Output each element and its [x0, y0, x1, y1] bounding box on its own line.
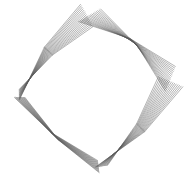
string-line	[95, 132, 144, 167]
string-line	[50, 21, 89, 53]
string-line	[19, 55, 52, 89]
string-line	[50, 19, 89, 52]
string-art-svg	[0, 0, 187, 180]
string-line	[48, 13, 86, 50]
string-line	[25, 97, 59, 140]
string-line	[51, 24, 91, 54]
string-line	[140, 81, 168, 127]
string-line	[140, 81, 169, 127]
string-art-figure	[0, 0, 187, 180]
string-line	[143, 85, 178, 130]
string-line	[143, 84, 177, 130]
string-line	[130, 38, 176, 66]
string-line	[51, 22, 91, 53]
string-line	[52, 133, 98, 161]
string-line	[59, 141, 99, 173]
string-line	[139, 80, 166, 126]
